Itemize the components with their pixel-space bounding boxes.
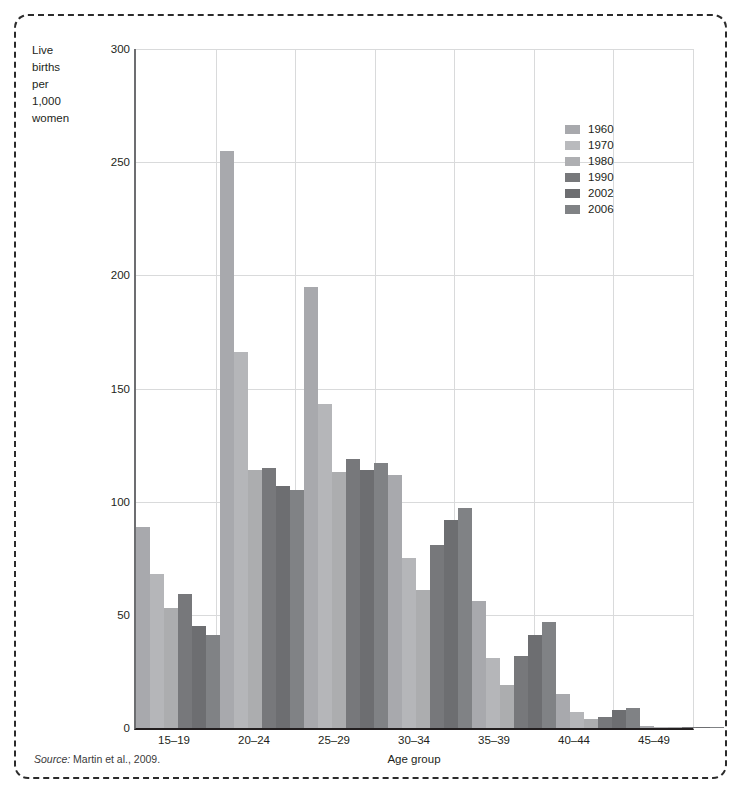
bar [710, 727, 724, 728]
legend-swatch [565, 125, 580, 134]
bar [514, 656, 528, 728]
bar-group [640, 49, 724, 728]
bar [654, 727, 668, 728]
legend-item: 2006 [565, 202, 614, 216]
bar [486, 658, 500, 728]
bar-group [304, 49, 388, 728]
y-axis-title-line: 1,000 [32, 93, 90, 110]
y-axis-title-line: women [32, 110, 90, 127]
legend-item: 1960 [565, 122, 614, 136]
y-axis-tick-label: 200 [111, 269, 130, 281]
legend-label: 1960 [588, 123, 614, 135]
bar [276, 486, 290, 728]
x-axis-tick-label: 30–34 [374, 734, 454, 746]
bar [164, 608, 178, 728]
x-axis-tick-label: 45–49 [614, 734, 694, 746]
source-note: Source: Martin et al., 2009. [34, 753, 160, 765]
legend-swatch [565, 189, 580, 198]
legend-swatch [565, 205, 580, 214]
bar [402, 558, 416, 728]
bar [528, 635, 542, 728]
legend-swatch [565, 173, 580, 182]
bar [192, 626, 206, 728]
legend-label: 2006 [588, 203, 614, 215]
x-axis-tick-label: 35–39 [454, 734, 534, 746]
legend-item: 1990 [565, 170, 614, 184]
legend-label: 1990 [588, 171, 614, 183]
legend-item: 1970 [565, 138, 614, 152]
y-axis-tick-label: 0 [124, 722, 130, 734]
source-label: Source: [34, 753, 70, 765]
bar [150, 574, 164, 728]
bar [472, 601, 486, 728]
y-axis-title-line: per [32, 76, 90, 93]
y-axis-tick-label: 300 [111, 43, 130, 55]
bar [248, 470, 262, 728]
legend-item: 2002 [565, 186, 614, 200]
bar [458, 508, 472, 728]
y-axis-title-line: Live [32, 42, 90, 59]
legend-swatch [565, 141, 580, 150]
bar [346, 459, 360, 728]
bar [696, 727, 710, 728]
bar [570, 712, 584, 728]
x-axis-tick-label: 40–44 [534, 734, 614, 746]
legend-label: 2002 [588, 187, 614, 199]
bar [262, 468, 276, 728]
y-axis-title: Livebirthsper1,000women [32, 42, 90, 127]
x-axis-tick-label: 20–24 [214, 734, 294, 746]
legend-swatch [565, 157, 580, 166]
x-axis-tick-labels: 15–1920–2425–2930–3435–3940–4445–49 [134, 734, 694, 746]
bar [360, 470, 374, 728]
bar [220, 151, 234, 728]
bar [416, 590, 430, 728]
bar [290, 490, 304, 728]
bar [304, 287, 318, 728]
bar [668, 727, 682, 728]
bar-group [136, 49, 220, 728]
bar [234, 352, 248, 728]
legend-label: 1970 [588, 139, 614, 151]
bar [444, 520, 458, 728]
legend-label: 1980 [588, 155, 614, 167]
bar [612, 710, 626, 728]
y-axis-tick-label: 50 [117, 609, 130, 621]
y-axis-title-line: births [32, 59, 90, 76]
bar [556, 694, 570, 728]
bar [388, 475, 402, 728]
source-citation: Martin et al., 2009. [73, 753, 160, 765]
figure-frame: Livebirthsper1,000women 0501001502002503… [14, 14, 727, 779]
x-axis-title: Age group [134, 753, 694, 765]
bar-group [472, 49, 556, 728]
bar [598, 717, 612, 728]
y-axis-tick-label: 250 [111, 156, 130, 168]
bar [584, 719, 598, 728]
bar [136, 527, 150, 728]
bar-group [388, 49, 472, 728]
y-axis-tick-label: 100 [111, 496, 130, 508]
x-axis-tick-label: 15–19 [134, 734, 214, 746]
bar [430, 545, 444, 728]
bar [500, 685, 514, 728]
x-axis-tick-label: 25–29 [294, 734, 374, 746]
y-axis-tick-label: 150 [111, 383, 130, 395]
bar [374, 463, 388, 728]
bar [640, 726, 654, 728]
bar [682, 727, 696, 728]
bar [178, 594, 192, 728]
bar [206, 635, 220, 728]
bar [626, 708, 640, 728]
bar [318, 404, 332, 728]
bar [332, 472, 346, 728]
legend-item: 1980 [565, 154, 614, 168]
legend: 196019701980199020022006 [565, 122, 614, 218]
bar [542, 622, 556, 728]
bar-group [220, 49, 304, 728]
